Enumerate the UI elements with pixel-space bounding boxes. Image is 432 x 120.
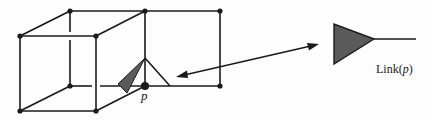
vertex-front-bottom-right [93,108,98,113]
vertex-back-top-left [67,8,72,13]
vertex-back-bottom-right [217,83,222,88]
arrowhead-right-icon [307,43,319,51]
arrowhead-left-icon [176,71,188,79]
link-p-triangle [334,24,374,64]
double-arrow [176,43,319,78]
vertex-p-label: p [141,88,148,104]
vertex-front-top-right [93,33,98,38]
link-label-prefix: Link( [376,62,403,76]
edge-depth-bottom-right [96,86,145,111]
vertex-front-bottom-left [17,108,22,113]
cone-edge [145,58,170,86]
edge-depth-top-left [20,11,70,36]
edge-depth-bottom-left [20,86,70,111]
link-label-suffix: ) [409,62,413,76]
link-p-label: Link(p) [376,62,413,77]
vertex-back-bottom-left [67,83,72,88]
cell-complex-diagram [0,0,432,120]
vertex-back-top-right [217,8,222,13]
vertex-back-top-mid [142,8,147,13]
vertex-front-top-left [17,33,22,38]
edge-depth-top-right [96,11,145,36]
